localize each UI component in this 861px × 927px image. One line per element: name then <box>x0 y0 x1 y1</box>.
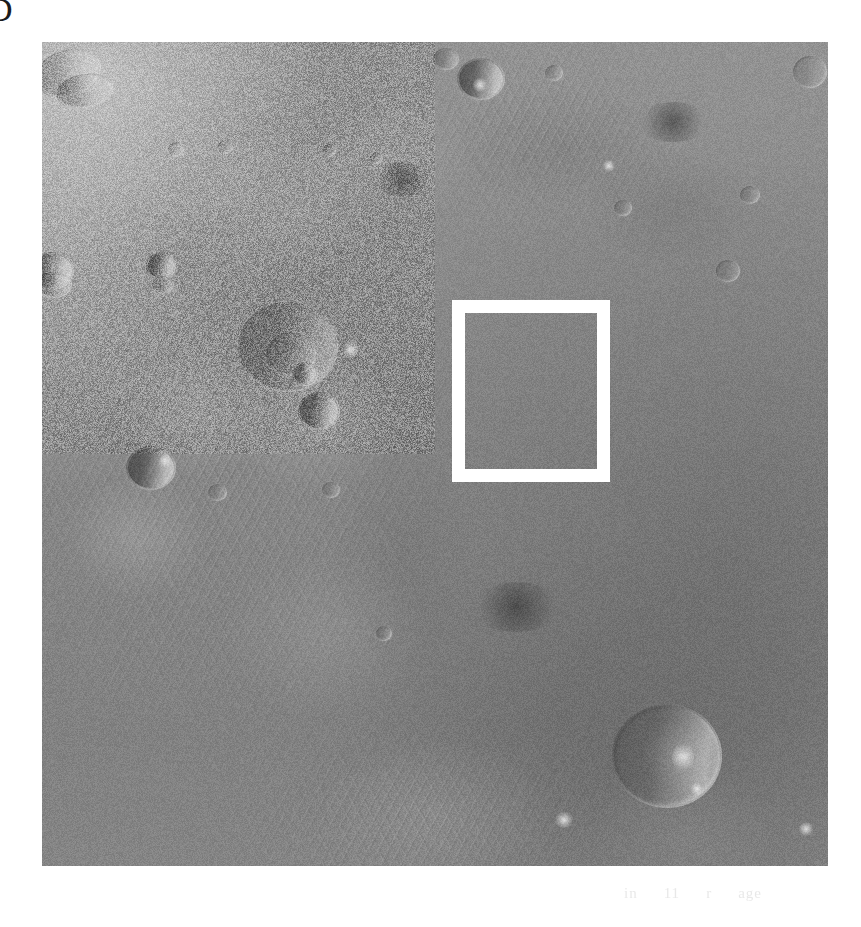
planetary-surface-image <box>42 42 828 866</box>
page-corner-glyph: D <box>0 0 18 27</box>
ghost-caption-fragment-2: 11 <box>664 885 680 902</box>
ghost-caption: in 11 r age <box>624 882 824 904</box>
film-grain-fine <box>42 42 828 866</box>
ghost-caption-fragment-4: age <box>738 885 762 902</box>
inset-location-box[interactable] <box>452 300 610 482</box>
ghost-caption-fragment-1: in <box>624 885 638 902</box>
ghost-caption-fragment-3: r <box>706 885 712 902</box>
